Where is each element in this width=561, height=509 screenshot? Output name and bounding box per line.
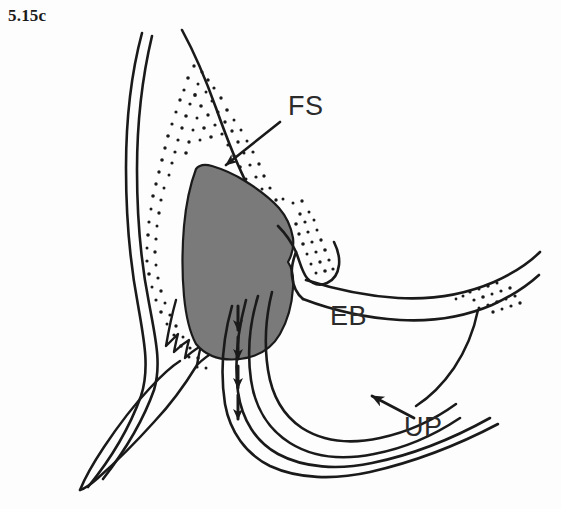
label-up: UP bbox=[404, 412, 443, 442]
label-fs: FS bbox=[288, 91, 324, 121]
band-descending-branch bbox=[416, 310, 478, 406]
anatomical-diagram: FS EB UP bbox=[0, 0, 561, 509]
distal-band-stipple-field bbox=[455, 282, 522, 314]
label-eb: EB bbox=[330, 301, 367, 331]
fs-leader-arrow bbox=[226, 122, 280, 165]
figure-container: 5.15c bbox=[0, 0, 561, 509]
right-notch-stipple-field bbox=[292, 199, 335, 274]
